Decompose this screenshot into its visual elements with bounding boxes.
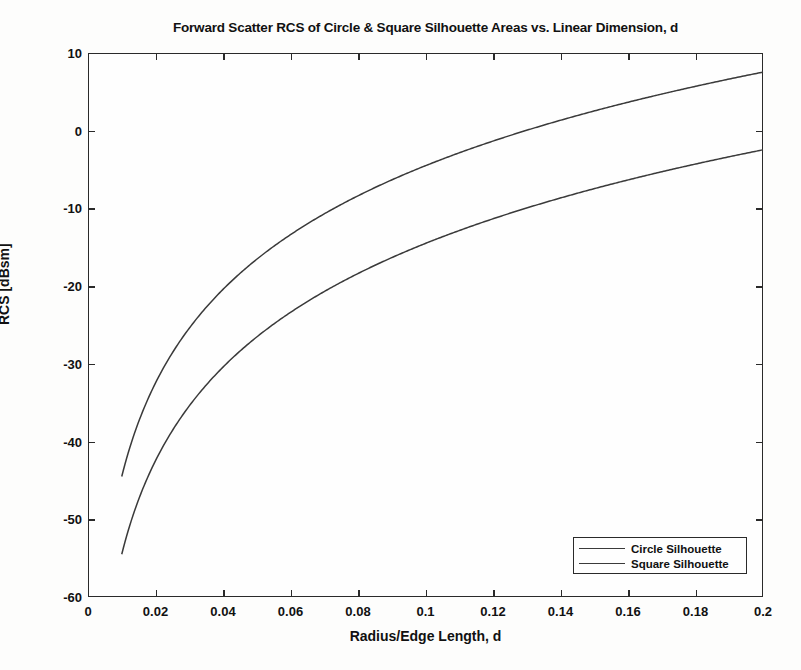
curve-square-silhouette: [122, 150, 763, 554]
legend-line-swatch-square: [579, 563, 625, 564]
legend: Circle Silhouette Square Silhouette: [573, 537, 747, 574]
legend-label-square: Square Silhouette: [631, 558, 729, 570]
legend-line-swatch-circle: [579, 548, 625, 549]
curve-circle-silhouette: [122, 72, 763, 476]
legend-item-circle: Circle Silhouette: [579, 541, 741, 556]
legend-label-circle: Circle Silhouette: [631, 543, 722, 555]
legend-item-square: Square Silhouette: [579, 556, 741, 571]
figure-canvas: Forward Scatter RCS of Circle & Square S…: [0, 0, 801, 670]
